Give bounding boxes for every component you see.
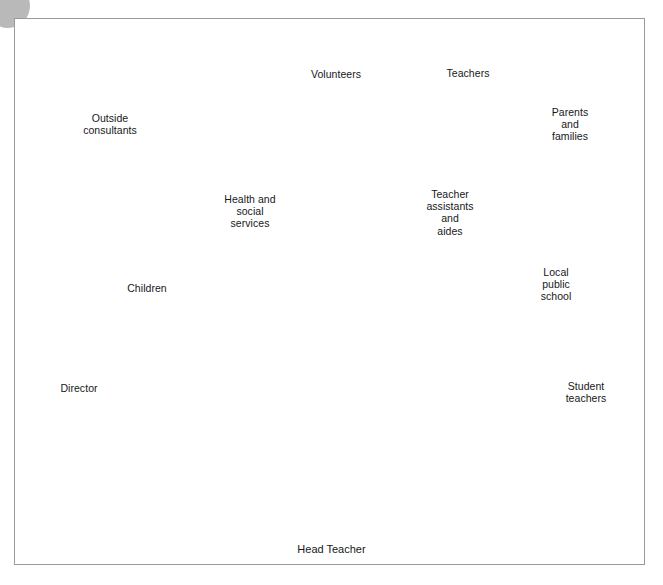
figure-frame [14,18,645,565]
figure-page: Outside consultants Volunteers Teachers … [0,0,663,585]
figure-caption: Head Teacher [0,543,663,555]
